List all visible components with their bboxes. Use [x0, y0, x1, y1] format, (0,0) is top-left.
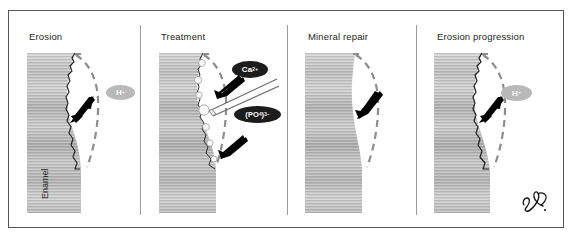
calcium-release-arrow	[214, 75, 245, 99]
ion-badge-hydrogen-erosion: H+	[106, 85, 135, 100]
figure-frame: Erosion	[8, 10, 564, 228]
panel-title-treatment: Treatment	[161, 31, 205, 42]
ion-badge-hydrogen-erosion-progression: H+	[501, 85, 532, 101]
erosion-repair-figure: Erosion	[0, 0, 578, 244]
panel-title-erosion-progression: Erosion progression	[437, 31, 524, 42]
enamel-body-treatment	[159, 53, 279, 213]
ion-badge-phosphate: (PO4)3−	[234, 106, 281, 123]
ion-badge-calcium: Ca2+	[232, 61, 268, 78]
ion-label-phosphate: (PO	[245, 110, 259, 119]
enamel-caption: Enamel	[40, 168, 50, 199]
enamel-block-mineral-repair	[305, 53, 401, 213]
panel-erosion-progression: Erosion progression	[417, 11, 565, 227]
panel-title-mineral-repair: Mineral repair	[308, 31, 368, 42]
enamel-block-treatment	[159, 53, 279, 213]
panel-erosion: Erosion	[9, 11, 140, 227]
signature-glyph	[521, 189, 551, 215]
artist-signature	[521, 189, 551, 219]
enamel-body-mineral-repair	[305, 53, 401, 213]
panel-title-erosion: Erosion	[29, 31, 62, 42]
ion-label-calcium: Ca	[242, 65, 252, 74]
panel-treatment: Treatment	[141, 11, 287, 227]
enamel-svg-mineral-repair	[305, 53, 401, 213]
panel-mineral-repair: Mineral repair	[288, 11, 416, 227]
acid-attack-arrow-erosion-progression	[479, 95, 504, 123]
enamel-svg-treatment	[159, 53, 279, 213]
acid-attack-arrow-erosion	[70, 95, 95, 123]
